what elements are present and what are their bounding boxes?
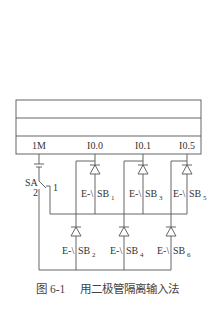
button-name: SB	[145, 188, 158, 199]
diode-icon	[138, 165, 148, 174]
button-name: SB	[126, 245, 139, 256]
button-sb1: E-\ SB 1	[81, 188, 115, 202]
button-prefix: E-\	[110, 245, 122, 256]
button-sb2: E-\ SB 2	[62, 245, 96, 259]
terminal-label-i0-5: I0.5	[179, 140, 195, 151]
terminal-label-i0-1: I0.1	[135, 140, 151, 151]
button-index: 2	[92, 251, 96, 259]
button-name: SB	[189, 188, 202, 199]
button-index: 6	[187, 251, 191, 259]
button-sb3: E-\ SB 3	[129, 188, 163, 202]
button-prefix: E-\	[62, 245, 74, 256]
button-prefix: E-\	[129, 188, 141, 199]
sa-position-1-label: 1	[53, 182, 58, 193]
sa-contact-1-wire	[46, 186, 50, 214]
figure-number: 图 6-1	[36, 283, 65, 295]
button-index: 4	[140, 251, 144, 259]
button-sb4: E-\ SB 4	[110, 245, 144, 259]
button-name: SB	[78, 245, 91, 256]
button-index: 3	[159, 194, 163, 202]
sa-switch-blade	[39, 181, 46, 188]
figure-caption: 用二极管隔离输入法	[80, 282, 179, 295]
terminal-label-i0-0: I0.0	[87, 140, 103, 151]
circuit-diagram: 1M I0.0 I0.1 I0.5 SA 2 1 E-\ SB 1 E-\ SB…	[0, 0, 218, 312]
diode-icon	[119, 227, 129, 236]
button-prefix: E-\	[81, 188, 93, 199]
button-name: SB	[97, 188, 110, 199]
sa-position-2-label: 2	[33, 187, 38, 198]
button-prefix: E-\	[173, 188, 185, 199]
button-index: 5	[203, 194, 207, 202]
terminal-label-1m: 1M	[32, 140, 46, 151]
diode-icon	[166, 227, 176, 236]
button-sb5: E-\ SB 5	[173, 188, 207, 202]
diode-icon	[182, 165, 192, 174]
button-name: SB	[173, 245, 186, 256]
button-index: 1	[111, 194, 115, 202]
diode-icon	[90, 165, 100, 174]
button-sb6: E-\ SB 6	[157, 245, 191, 259]
diode-icon	[71, 227, 81, 236]
button-prefix: E-\	[157, 245, 169, 256]
